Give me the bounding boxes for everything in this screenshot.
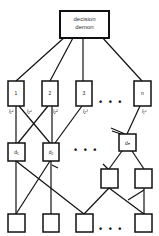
sub-box-right [135, 169, 152, 188]
feature-demon-label-dn: dₙ [119, 141, 136, 146]
image-demon-box-3 [76, 214, 93, 232]
connection-label-l22: l₂² [53, 109, 58, 114]
cognitive-demon-label-2: 2 [42, 91, 58, 96]
image-demon-box-2 [43, 214, 59, 232]
feature-demon-label-d1: d₁ [8, 150, 25, 155]
connection-label-l11: l₁¹ [9, 109, 13, 114]
decision-demon-label-line2: demon [61, 23, 108, 31]
decision-demon-label-line1: decision [61, 15, 108, 23]
sub-box-left [101, 169, 118, 188]
connection-label-l23: l₂³ [83, 109, 88, 114]
cognitive-demon-label-n: n [134, 91, 151, 96]
cognitive-demon-label-1: 1 [8, 91, 24, 96]
connection-label-l1n: l₁ⁿ [142, 109, 147, 114]
bottom-ellipsis: • • • [99, 224, 123, 234]
feature-demon-label-d2: d₂ [43, 150, 59, 155]
image-demon-box-n [135, 214, 152, 232]
mid-ellipsis: • • • [74, 145, 98, 155]
top-ellipsis: • • • [99, 97, 123, 107]
image-demon-box-1 [8, 214, 25, 232]
connection-label-l21: l₂¹ [27, 109, 32, 114]
cognitive-demon-label-3: 3 [76, 91, 92, 96]
decision-demon-box: decision demon [59, 10, 110, 39]
